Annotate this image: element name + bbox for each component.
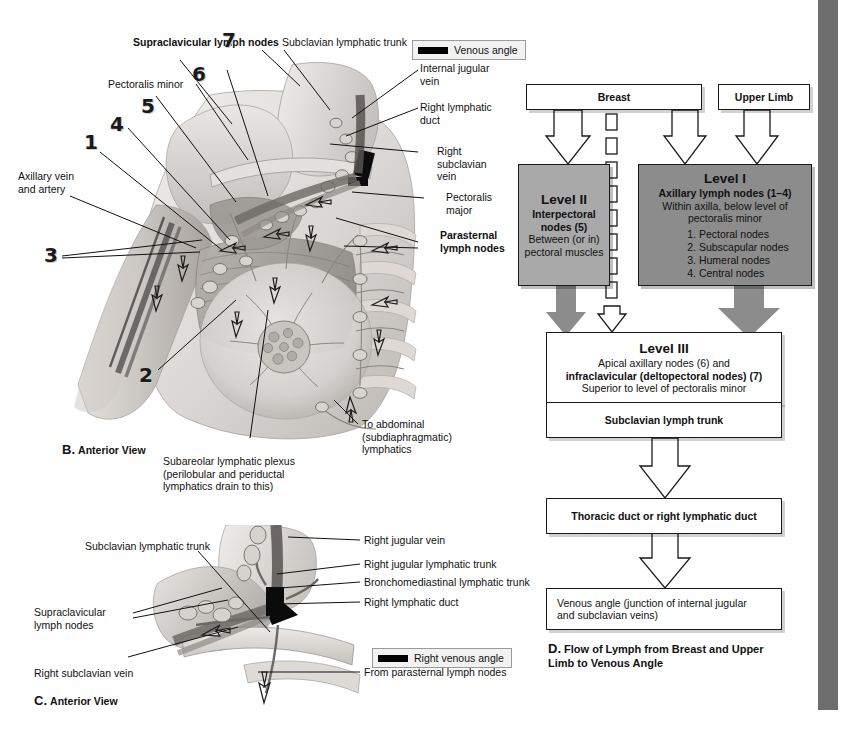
label-pectoralis-major: Pectoralis major [446, 191, 492, 216]
label-c-supraclavicular-lymph-nodes: Supraclavicular lymph nodes [34, 606, 106, 631]
flow-node-upper-limb-label: Upper Limb [735, 91, 793, 104]
label-c-right-jugular-vein: Right jugular vein [364, 534, 445, 547]
flow-node-breast[interactable]: Breast [526, 84, 702, 110]
level-three-line-2: infraclavicular (deltopectoral nodes) (7… [566, 370, 763, 383]
flow-node-upper-limb[interactable]: Upper Limb [718, 84, 810, 110]
level-one-item-4: 4. Central nodes [687, 267, 789, 280]
flow-node-thoracic-duct[interactable]: Thoracic duct or right lymphatic duct [546, 498, 782, 534]
label-c-right-jugular-lymphatic-trunk: Right jugular lymphatic trunk [364, 558, 496, 571]
label-supraclavicular-lymph-nodes: Supraclavicular lymph nodes [133, 36, 279, 49]
panel-c-artwork [148, 525, 363, 710]
callout-number-7: 7 [222, 28, 236, 52]
legend-label: Right venous angle [414, 652, 504, 664]
legend-venous-angle: Venous angle [412, 40, 526, 60]
label-to-abdominal-lymphatics: To abdominal (subdiaphragmatic) lymphati… [362, 418, 452, 456]
flow-node-level-one[interactable]: Level I Axillary lymph nodes (1–4) Withi… [638, 164, 812, 286]
thoracic-duct-label: Thoracic duct or right lymphatic duct [571, 510, 757, 523]
panel-b-caption-letter: B. [62, 442, 75, 457]
flow-node-level-two[interactable]: Level II Interpectoral nodes (5) Between… [518, 164, 610, 286]
callout-number-5: 5 [141, 94, 155, 118]
label-c-right-lymphatic-duct: Right lymphatic duct [364, 596, 459, 609]
level-one-subtitle: Axillary lymph nodes (1–4) [658, 187, 791, 200]
callout-number-2: 2 [139, 363, 153, 387]
black-bar-swatch-icon [418, 47, 448, 54]
label-pectoralis-minor: Pectoralis minor [108, 78, 183, 91]
panel-d-caption-text: Flow of Lymph from Breast and Upper Limb… [548, 643, 764, 669]
panel-c-caption-text: Anterior View [50, 695, 118, 707]
flow-node-venous-angle[interactable]: Venous angle (junction of internal jugul… [546, 588, 782, 630]
flow-node-level-three[interactable]: Level III Apical axillary nodes (6) and … [546, 332, 782, 404]
legend-right-venous-angle: Right venous angle [372, 648, 512, 668]
panel-c-caption: C. Anterior View [34, 694, 118, 708]
label-right-subclavian-vein: Right subclavian vein [437, 145, 487, 183]
panel-c-illustration [148, 525, 363, 710]
callout-number-1: 1 [84, 130, 98, 154]
label-subareolar-plexus: Subareolar lymphatic plexus (perilobular… [163, 455, 295, 493]
label-c-bronchomediastinal-lymphatic-trunk: Bronchomediastinal lymphatic trunk [364, 576, 530, 589]
label-subclavian-lymphatic-trunk: Subclavian lymphatic trunk [282, 36, 407, 49]
level-one-detail: Within axilla, below level of pectoralis… [662, 200, 787, 225]
label-c-subclavian-lymphatic-trunk: Subclavian lymphatic trunk [85, 540, 210, 553]
label-right-lymphatic-duct: Right lymphatic duct [420, 101, 492, 126]
level-two-detail: Between (or in) pectoral muscles [525, 233, 604, 258]
level-one-item-1: 1. Pectoral nodes [687, 228, 789, 241]
level-one-title: Level I [704, 171, 746, 187]
label-parasternal-lymph-nodes: Parasternal lymph nodes [440, 229, 505, 254]
level-three-title: Level III [639, 341, 689, 357]
callout-number-4: 4 [110, 112, 124, 136]
figure-page: Supraclavicular lymph nodes Subclavian l… [0, 0, 844, 731]
panel-d-caption-letter: D. [548, 641, 561, 656]
flow-node-subclavian-lymph-trunk[interactable]: Subclavian lymph trunk [546, 402, 782, 438]
panel-d-caption: D. Flow of Lymph from Breast and Upper L… [548, 642, 764, 670]
flow-node-breast-label: Breast [598, 91, 631, 104]
level-two-subtitle-2: nodes (5) [541, 221, 588, 234]
panel-d-flowchart: Breast Upper Limb Level II Interpectoral… [512, 80, 818, 690]
callout-number-3: 3 [44, 243, 58, 267]
panel-b-caption-text: Anterior View [78, 444, 146, 456]
page-edge-tab [818, 0, 838, 710]
label-c-right-subclavian-vein: Right subclavian vein [34, 667, 133, 680]
legend-label: Venous angle [454, 44, 518, 56]
level-three-line-3: Superior to level of pectoralis minor [582, 382, 747, 395]
level-two-title: Level II [541, 192, 587, 208]
level-one-item-3: 3. Humeral nodes [687, 254, 789, 267]
level-three-line-1: Apical axillary nodes (6) and [598, 357, 730, 370]
black-bar-swatch-icon [378, 655, 408, 662]
panel-c-caption-letter: C. [34, 693, 47, 708]
panel-b-caption: B. Anterior View [62, 443, 146, 457]
label-internal-jugular-vein: Internal jugular vein [420, 62, 489, 87]
level-one-item-2: 2. Subscapular nodes [687, 241, 789, 254]
callout-number-6: 6 [192, 62, 206, 86]
venous-angle-label: Venous angle (junction of internal jugul… [557, 597, 747, 622]
label-axillary-vein-and-artery: Axillary vein and artery [18, 170, 74, 195]
subclavian-lymph-trunk-label: Subclavian lymph trunk [605, 414, 723, 427]
level-two-subtitle: Interpectoral [532, 208, 596, 221]
